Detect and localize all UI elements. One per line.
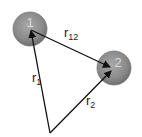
label-r2: r2 (86, 94, 95, 107)
label-r12: r12 (64, 26, 78, 39)
two-body-vector-diagram: 1 2 (0, 0, 142, 137)
label-r2-sub: 2 (90, 100, 95, 110)
body-2-label: 2 (114, 55, 121, 70)
body-1-label: 1 (26, 15, 33, 30)
label-r1: r1 (32, 71, 41, 84)
label-r12-sub: 12 (68, 32, 78, 42)
body-1: 1 (13, 12, 47, 46)
vector-r2-arrow (50, 71, 111, 133)
label-r1-sub: 1 (36, 77, 41, 87)
